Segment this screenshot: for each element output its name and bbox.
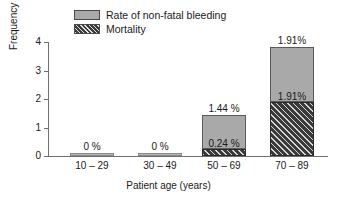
y-tick-3: 3	[44, 71, 48, 72]
gray-solid-swatch-icon	[74, 10, 100, 20]
legend-item-bleeding: Rate of non-fatal bleeding	[74, 9, 226, 21]
y-tick-label-3: 3	[35, 66, 41, 76]
y-tick-label-2: 2	[35, 94, 41, 104]
x-axis-title: Patient age (years)	[0, 180, 337, 191]
x-tick-label-30-49: 30 – 49	[143, 160, 176, 171]
y-tick-2: 2	[44, 99, 48, 100]
bar-segment-zero: 0 %	[70, 153, 114, 156]
y-tick-label-1: 1	[35, 123, 41, 133]
bar-segment-mortality: 1.91%	[270, 102, 314, 156]
y-tick-label-0: 0	[35, 151, 41, 161]
y-tick-label-4: 4	[35, 37, 41, 47]
y-tick-1: 1	[44, 128, 48, 129]
y-tick-0: 0	[44, 156, 48, 157]
bar-segment-zero: 0 %	[138, 153, 182, 156]
x-tick-label-50-69: 50 – 69	[207, 160, 240, 171]
hatched-swatch-icon	[74, 24, 100, 34]
bar-inner-label: 1.91%	[278, 92, 306, 102]
bar-group-50-69: 1.44 % 0.24 % 50 – 69	[202, 42, 246, 156]
bar-segment-mortality: 0.24 %	[202, 149, 246, 156]
legend-label-mortality: Mortality	[106, 24, 146, 35]
bar-chart: Rate of non-fatal bleeding Mortality Fre…	[0, 0, 337, 201]
x-tick-label-70-89: 70 – 89	[275, 160, 308, 171]
y-axis-line	[48, 42, 49, 156]
x-axis-line	[44, 156, 328, 157]
y-axis-title: Frequency (%)	[8, 0, 19, 50]
bar-group-30-49: 0 % 30 – 49	[138, 42, 182, 156]
y-tick-4: 4	[44, 42, 48, 43]
chart-legend: Rate of non-fatal bleeding Mortality	[74, 9, 226, 37]
bar-top-label: 0 %	[83, 142, 100, 152]
bar-group-70-89: 1.91% 1.91% 70 – 89	[270, 42, 314, 156]
bar-inner-label: 0.24 %	[208, 139, 239, 149]
legend-label-bleeding: Rate of non-fatal bleeding	[106, 10, 226, 21]
x-tick-label-10-29: 10 – 29	[75, 160, 108, 171]
plot-area: 4 3 2 1 0 0 % 10 – 29 0 % 30 – 49	[48, 42, 314, 156]
legend-item-mortality: Mortality	[74, 23, 226, 35]
bar-top-label: 1.91%	[278, 36, 306, 46]
bar-top-label: 1.44 %	[208, 104, 239, 114]
bar-top-label: 0 %	[151, 142, 168, 152]
bar-group-10-29: 0 % 10 – 29	[70, 42, 114, 156]
